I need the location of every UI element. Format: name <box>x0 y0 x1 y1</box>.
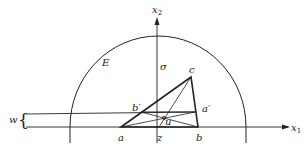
x1-arrow-icon <box>282 125 290 130</box>
label-z: z <box>156 132 163 143</box>
label-u: u <box>165 116 171 127</box>
label-x2: x2 <box>152 4 162 17</box>
label-c: c <box>189 64 195 75</box>
brace-w: { <box>18 110 29 130</box>
label-a-prime: a′ <box>202 103 211 114</box>
label-sigma: σ <box>160 61 168 72</box>
label-b-prime: b′ <box>132 102 141 113</box>
label-a: a <box>118 132 124 143</box>
label-w: w <box>9 114 18 125</box>
label-b: b <box>196 132 202 143</box>
label-E: E <box>101 57 110 68</box>
x2-arrow-icon <box>155 17 160 25</box>
diagram-canvas: x2 x1 E σ c b′ a′ u a z b w { <box>0 0 307 154</box>
label-x1: x1 <box>291 122 301 135</box>
